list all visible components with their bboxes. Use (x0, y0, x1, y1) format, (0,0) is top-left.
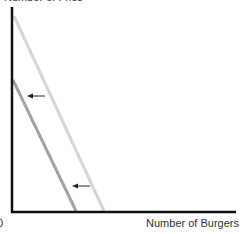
x-axis-label: Number of Burgers (146, 217, 239, 229)
shift-arrow-lower (72, 184, 90, 189)
shift-arrow-upper (27, 94, 45, 99)
budget-line-chart (0, 0, 242, 234)
origin-label: 0 (0, 217, 3, 229)
shifted-budget-line (13, 80, 76, 211)
